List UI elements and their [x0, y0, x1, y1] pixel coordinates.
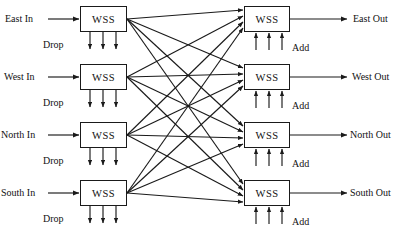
label-add-west: Add [292, 101, 309, 111]
label-drop-north: Drop [43, 156, 64, 166]
label-west-in: West In [4, 72, 35, 82]
label-drop-west: Drop [43, 98, 64, 108]
interconnect-wires [0, 0, 401, 225]
label-drop-south: Drop [43, 214, 64, 224]
wss-node-egress-west[interactable]: WSS [244, 64, 290, 90]
wss-node-ingress-east[interactable]: WSS [80, 6, 127, 32]
wss-node-ingress-north[interactable]: WSS [80, 122, 127, 148]
label-west-out: West Out [352, 72, 389, 82]
diagram-canvas: WSS WSS WSS WSS WSS WSS WSS WSS East In … [0, 0, 401, 225]
label-add-south: Add [292, 217, 309, 225]
wss-node-egress-east[interactable]: WSS [244, 6, 290, 32]
label-south-in: South In [1, 188, 35, 198]
label-east-out: East Out [353, 14, 388, 24]
wss-node-ingress-south[interactable]: WSS [80, 180, 127, 206]
label-north-out: North Out [350, 130, 391, 140]
label-south-out: South Out [350, 188, 391, 198]
label-add-north: Add [292, 159, 309, 169]
label-east-in: East In [5, 14, 33, 24]
label-add-east: Add [292, 43, 309, 53]
label-north-in: North In [1, 130, 35, 140]
label-drop-east: Drop [43, 40, 64, 50]
wss-node-egress-south[interactable]: WSS [244, 180, 290, 206]
wss-node-ingress-west[interactable]: WSS [80, 64, 127, 90]
wss-node-egress-north[interactable]: WSS [244, 122, 290, 148]
